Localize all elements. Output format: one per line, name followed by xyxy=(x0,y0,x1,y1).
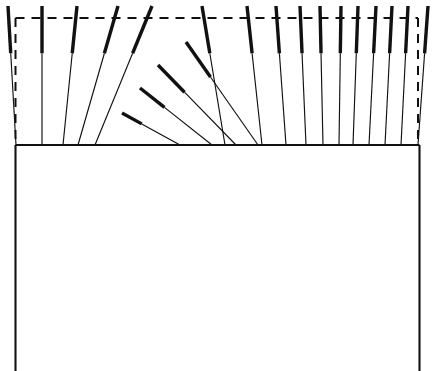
element-shaft xyxy=(339,53,340,145)
tapered-element-group xyxy=(8,6,428,145)
element-tip xyxy=(186,42,210,77)
element-shaft xyxy=(401,53,406,145)
element-shaft xyxy=(302,53,306,145)
element-shaft xyxy=(321,53,323,145)
element-tip xyxy=(202,6,210,53)
element-shaft xyxy=(369,53,374,145)
element-tip xyxy=(158,65,185,92)
element-tip xyxy=(340,6,341,53)
element-shaft xyxy=(279,53,286,145)
element-shaft xyxy=(210,53,225,145)
element-shaft xyxy=(63,53,72,145)
element-tip xyxy=(8,6,11,53)
element-tip xyxy=(320,6,321,53)
element-tip xyxy=(140,88,164,107)
element-tip xyxy=(72,6,77,53)
element-tip xyxy=(356,6,358,53)
element-tip xyxy=(425,6,428,53)
element-shaft xyxy=(252,53,262,145)
element-tip xyxy=(104,6,118,53)
main-body-outline xyxy=(16,145,420,371)
element-tip xyxy=(276,6,279,53)
figure-drawing xyxy=(0,0,434,371)
element-tip xyxy=(374,6,376,53)
figure-canvas xyxy=(0,0,434,371)
element-shaft xyxy=(142,124,180,145)
element-tip xyxy=(390,6,392,53)
element-shaft xyxy=(185,92,236,145)
element-tip xyxy=(406,6,408,53)
element-shaft xyxy=(353,53,356,145)
element-tip xyxy=(122,113,142,124)
element-shaft xyxy=(385,53,390,145)
element-shaft xyxy=(210,77,258,145)
element-tip xyxy=(133,6,152,53)
element-tip xyxy=(247,6,252,53)
element-tip xyxy=(300,6,302,53)
